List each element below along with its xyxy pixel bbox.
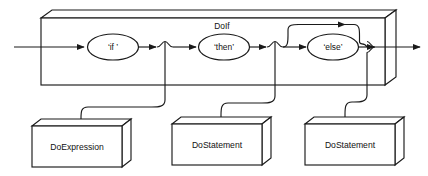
action-box-do-statement-else: DoStatement	[305, 117, 404, 165]
token-then: ‘then’	[199, 34, 250, 60]
do-statement-then-right-face	[262, 117, 271, 165]
token-then-label: ‘then’	[214, 42, 234, 52]
token-else: ‘else’	[308, 34, 359, 60]
do-statement-else-label: DoStatement	[325, 140, 376, 150]
do-statement-then-label: DoStatement	[192, 140, 243, 150]
token-else-label: ‘else’	[323, 42, 342, 52]
do-statement-then-top-face	[172, 117, 271, 124]
do-expression-top-face	[32, 119, 131, 126]
railroad-diagram: DoIf ‘if ’ ‘then’	[0, 0, 428, 176]
token-if-label: ‘if ’	[108, 42, 118, 52]
rule-label: DoIf	[214, 21, 230, 31]
do-expression-right-face	[122, 119, 131, 167]
token-if: ‘if ’	[88, 34, 139, 60]
do-statement-else-top-face	[305, 117, 404, 124]
action-box-do-statement-then: DoStatement	[172, 117, 271, 165]
do-expression-label: DoExpression	[50, 142, 104, 152]
slab-top-face	[41, 10, 396, 18]
action-box-do-expression: DoExpression	[32, 119, 131, 167]
do-statement-else-right-face	[395, 117, 404, 165]
syntax-diagram-canvas: DoIf ‘if ’ ‘then’	[0, 0, 428, 176]
